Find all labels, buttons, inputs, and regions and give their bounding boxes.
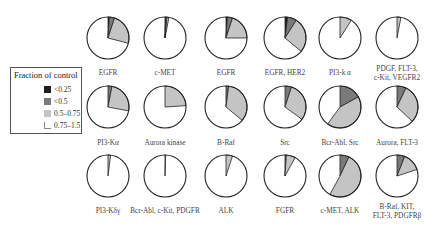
pie-label: B-Raf, KIT,FLT-3, PDGFRβ [373, 202, 422, 220]
pie-chart [0, 0, 434, 228]
